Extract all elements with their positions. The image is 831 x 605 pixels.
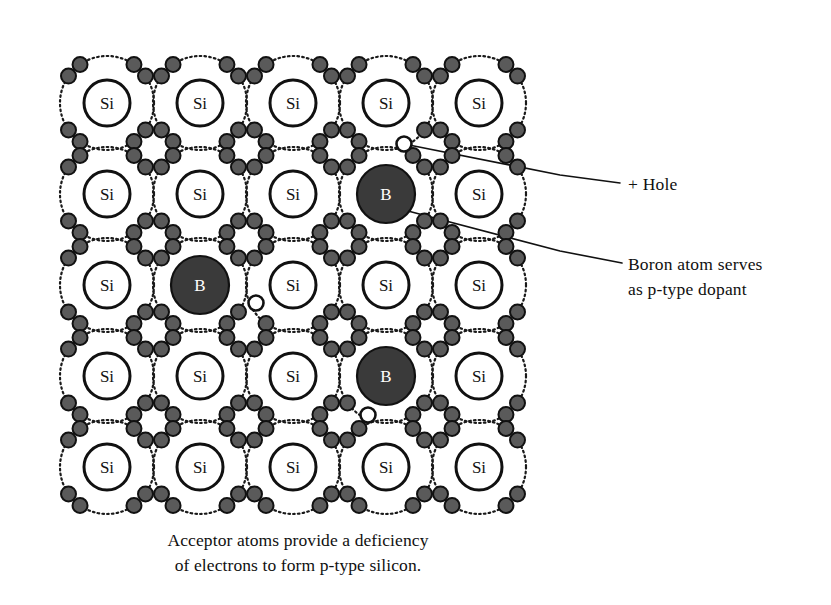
valence-electron <box>259 498 274 513</box>
valence-electron <box>498 148 513 163</box>
valence-electron <box>166 225 181 240</box>
valence-electron <box>352 225 367 240</box>
valence-electron <box>433 342 448 357</box>
atom-symbol-label: Si <box>379 458 393 477</box>
silicon-atom: Si <box>177 444 223 490</box>
valence-electron <box>259 239 274 254</box>
valence-electron <box>126 134 141 149</box>
atom-symbol-label: B <box>380 185 391 204</box>
valence-electron <box>219 316 234 331</box>
atom-symbol-label: Si <box>472 276 486 295</box>
valence-electron <box>324 69 339 84</box>
valence-electron <box>405 421 420 436</box>
valence-electron <box>433 251 448 266</box>
valence-electron <box>61 251 76 266</box>
valence-electron <box>166 134 181 149</box>
valence-electron <box>247 213 262 228</box>
caption-line-1: Acceptor atoms provide a deficiency <box>88 528 508 553</box>
valence-electron <box>73 316 88 331</box>
valence-electron <box>498 239 513 254</box>
valence-electron <box>510 395 525 410</box>
silicon-atom: Si <box>177 80 223 126</box>
valence-electron <box>166 239 181 254</box>
valence-electron <box>510 433 525 448</box>
atom-symbol-label: Si <box>100 185 114 204</box>
valence-electron <box>73 498 88 513</box>
silicon-atom: Si <box>363 80 409 126</box>
valence-electron <box>138 69 153 84</box>
atom-symbol-label: Si <box>100 458 114 477</box>
valence-electron <box>417 395 432 410</box>
valence-electron <box>312 407 327 422</box>
figure-caption: Acceptor atoms provide a deficiency of e… <box>88 528 508 579</box>
silicon-atom: Si <box>456 353 502 399</box>
valence-electron <box>61 433 76 448</box>
valence-electron <box>259 330 274 345</box>
valence-electron <box>166 57 181 72</box>
valence-electron <box>417 433 432 448</box>
hole-marker <box>397 137 412 152</box>
atom-symbol-label: Si <box>286 94 300 113</box>
valence-electron <box>73 57 88 72</box>
silicon-atom: Si <box>270 262 316 308</box>
silicon-atom: Si <box>270 444 316 490</box>
valence-electron <box>352 239 367 254</box>
valence-electron <box>231 433 246 448</box>
atom-symbol-label: Si <box>193 458 207 477</box>
silicon-atom: Si <box>270 353 316 399</box>
valence-electron <box>61 122 76 137</box>
valence-electron <box>247 395 262 410</box>
atom-symbol-label: Si <box>286 276 300 295</box>
valence-electron <box>138 395 153 410</box>
valence-electron <box>433 122 448 137</box>
silicon-atom: Si <box>84 353 130 399</box>
valence-electron <box>247 69 262 84</box>
atom-symbol-label: Si <box>472 185 486 204</box>
valence-electron <box>166 316 181 331</box>
valence-electron <box>312 421 327 436</box>
silicon-atom: Si <box>456 262 502 308</box>
valence-electron <box>445 239 460 254</box>
valence-electron <box>324 395 339 410</box>
valence-electron <box>405 498 420 513</box>
valence-electron <box>259 57 274 72</box>
valence-electron <box>73 330 88 345</box>
valence-electron <box>126 225 141 240</box>
valence-electron <box>61 304 76 319</box>
valence-electron <box>405 239 420 254</box>
silicon-atom: Si <box>270 171 316 217</box>
caption-line-2: of electrons to form p-type silicon. <box>88 553 508 578</box>
atom-core-layer: SiSiSiSiSiSiSiSiBSiSiBSiSiSiSiSiSiBSiSiS… <box>84 80 502 490</box>
valence-electron <box>510 251 525 266</box>
valence-electron <box>510 304 525 319</box>
boron-callout-label: Boron atom servesas p-type dopant <box>628 252 763 303</box>
silicon-atom: Si <box>363 444 409 490</box>
silicon-atom: Si <box>456 171 502 217</box>
valence-electron <box>247 342 262 357</box>
valence-electron <box>433 433 448 448</box>
valence-electron <box>61 395 76 410</box>
valence-electron <box>247 486 262 501</box>
silicon-atom: Si <box>177 353 223 399</box>
valence-electron <box>498 225 513 240</box>
valence-electron <box>138 433 153 448</box>
valence-electron <box>61 486 76 501</box>
valence-electron <box>126 148 141 163</box>
valence-electron <box>73 239 88 254</box>
valence-electron <box>340 486 355 501</box>
valence-electron <box>154 342 169 357</box>
valence-electron <box>510 122 525 137</box>
valence-electron <box>154 486 169 501</box>
silicon-atom: Si <box>84 171 130 217</box>
valence-electron <box>154 69 169 84</box>
valence-electron <box>445 225 460 240</box>
valence-electron <box>126 421 141 436</box>
atom-symbol-label: Si <box>472 367 486 386</box>
valence-electron <box>405 316 420 331</box>
valence-electron <box>498 498 513 513</box>
valence-electron <box>417 69 432 84</box>
valence-electron <box>73 407 88 422</box>
valence-electron <box>166 407 181 422</box>
valence-electron <box>154 213 169 228</box>
valence-electron <box>154 160 169 175</box>
